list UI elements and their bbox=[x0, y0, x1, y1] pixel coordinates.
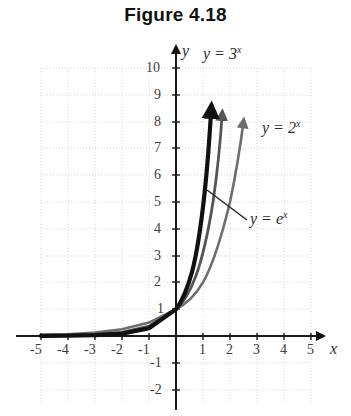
y-tick-label-3: 3 bbox=[154, 248, 161, 264]
curve-label-ex: y = ex bbox=[250, 209, 287, 228]
x-tick-label-2: 2 bbox=[226, 342, 233, 358]
curve-2x bbox=[41, 120, 244, 335]
y-tick-label-6: 6 bbox=[154, 167, 161, 183]
x-tick-label-neg2: -2 bbox=[111, 342, 123, 358]
x-tick-label-neg5: -5 bbox=[30, 342, 42, 358]
curve-label-ex-base: y = e bbox=[250, 210, 283, 227]
y-tick-label-8: 8 bbox=[154, 114, 161, 130]
y-tick-label-neg1: -1 bbox=[150, 355, 162, 371]
x-tick-label-neg4: -4 bbox=[57, 342, 69, 358]
x-tick-label-1: 1 bbox=[199, 342, 206, 358]
curve-label-2x: y = 2x bbox=[262, 118, 300, 137]
x-tick-label-neg1: -1 bbox=[138, 342, 150, 358]
x-tick-label-4: 4 bbox=[280, 342, 287, 358]
curve-label-3x: y = 3x bbox=[203, 44, 241, 63]
curve-label-2x-exponent: x bbox=[296, 118, 300, 129]
curve-label-3x-exponent: x bbox=[237, 44, 241, 55]
curve-label-2x-base: y = 2 bbox=[262, 119, 296, 136]
figure-container: Figure 4.18 bbox=[0, 0, 351, 416]
y-tick-label-7: 7 bbox=[154, 140, 161, 156]
graph-svg bbox=[0, 0, 351, 416]
y-tick-label-10: 10 bbox=[146, 60, 160, 76]
y-tick-label-9: 9 bbox=[154, 87, 161, 103]
y-tick-label-1: 1 bbox=[157, 301, 164, 317]
x-axis-label: x bbox=[330, 340, 337, 358]
x-tick-label-3: 3 bbox=[253, 342, 260, 358]
curve-label-3x-base: y = 3 bbox=[203, 45, 237, 62]
x-tick-label-5: 5 bbox=[307, 342, 314, 358]
y-tick-label-5: 5 bbox=[154, 194, 161, 210]
y-axis-label: y bbox=[182, 42, 189, 60]
y-tick-label-neg2: -2 bbox=[150, 382, 162, 398]
y-tick-label-4: 4 bbox=[154, 221, 161, 237]
y-tick-label-2: 2 bbox=[154, 274, 161, 290]
curve-label-ex-exponent: x bbox=[283, 209, 287, 220]
x-tick-label-neg3: -3 bbox=[84, 342, 96, 358]
plot-area: 10 9 8 7 6 5 4 3 2 1 -1 -2 -5 -4 -3 -2 -… bbox=[0, 0, 351, 416]
